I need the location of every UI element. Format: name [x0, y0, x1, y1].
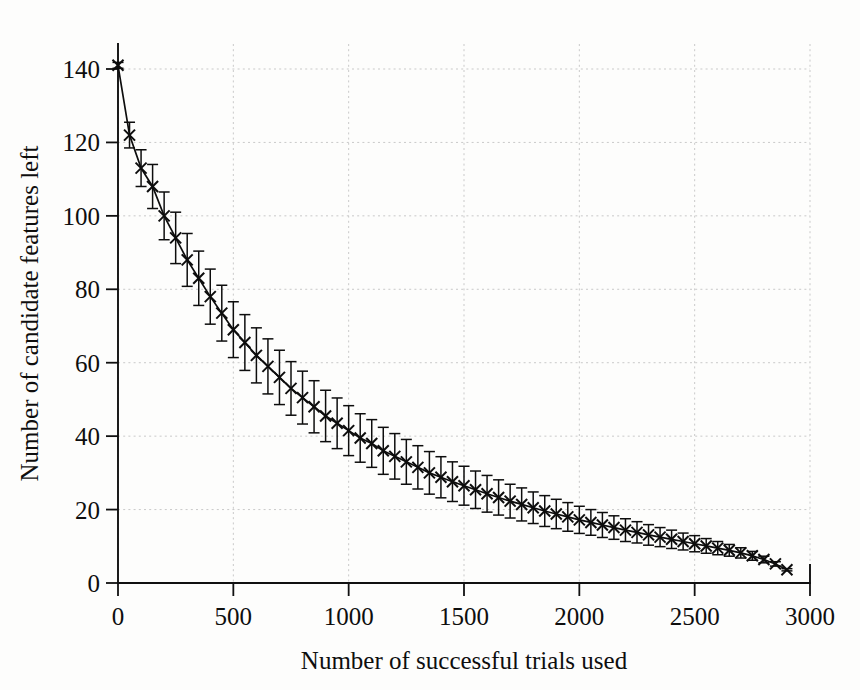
y-tick-label: 40: [75, 423, 100, 450]
y-tick-label: 0: [88, 570, 101, 597]
y-tick-label: 80: [75, 276, 100, 303]
y-tick-label: 20: [75, 497, 100, 524]
x-axis-title: Number of successful trials used: [301, 647, 628, 674]
x-tick-label: 3000: [785, 603, 835, 630]
x-tick-label: 2000: [554, 603, 604, 630]
tick-labels: 0204060801001201400500100015002000250030…: [63, 56, 836, 630]
axis-ticks: [106, 69, 810, 596]
y-tick-label: 100: [63, 203, 101, 230]
y-tick-label: 140: [63, 56, 101, 83]
y-tick-label: 120: [63, 129, 101, 156]
x-tick-label: 1500: [439, 603, 489, 630]
error-bars: [113, 62, 793, 570]
x-tick-label: 500: [215, 603, 253, 630]
x-tick-label: 0: [112, 603, 125, 630]
y-axis-title: Number of candidate features left: [16, 145, 43, 481]
chart-canvas: 0204060801001201400500100015002000250030…: [0, 0, 860, 690]
figure-container: 0204060801001201400500100015002000250030…: [0, 0, 860, 690]
x-tick-label: 2500: [670, 603, 720, 630]
x-tick-label: 1000: [324, 603, 374, 630]
y-tick-label: 60: [75, 350, 100, 377]
